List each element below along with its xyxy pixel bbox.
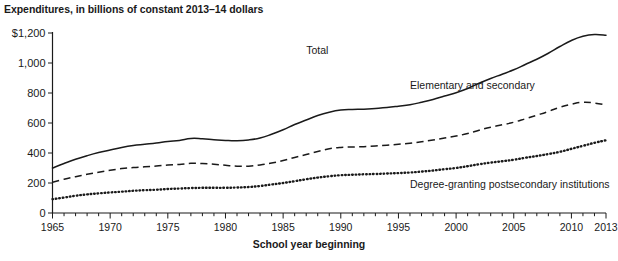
x-tick-label: 1995 — [387, 221, 411, 233]
series-label-1: Elementary and secondary — [410, 79, 536, 91]
series-path-1 — [53, 102, 607, 182]
y-tick-label: 600 — [27, 117, 45, 129]
x-tick-label: 1990 — [329, 221, 353, 233]
series-path-0 — [53, 34, 607, 168]
y-tick-label: 200 — [27, 177, 45, 189]
series-label-0: Total — [306, 44, 328, 56]
data-series-group — [53, 34, 607, 199]
y-axis-labels: $1,2001,0008006004002000 — [12, 27, 46, 219]
y-tick-label: 0 — [39, 207, 45, 219]
y-tick-label: 1,000 — [18, 57, 46, 69]
x-tick-label: 2010 — [560, 221, 584, 233]
x-tick-label: 1980 — [214, 221, 238, 233]
y-tick-label: 800 — [27, 87, 45, 99]
series-label-2: Degree-granting postsecondary institutio… — [410, 178, 610, 190]
x-axis-ticks — [53, 213, 607, 219]
x-tick-label: 1965 — [41, 221, 65, 233]
x-tick-label: 1985 — [271, 221, 295, 233]
x-tick-label: 2000 — [444, 221, 468, 233]
x-tick-label: 2013 — [594, 221, 618, 233]
x-tick-label: 2005 — [502, 221, 526, 233]
y-tick-label: $1,200 — [12, 27, 46, 39]
y-tick-label: 400 — [27, 147, 45, 159]
plot-area: $1,2001,0008006004002000 196519701975198… — [0, 0, 618, 261]
x-axis-title: School year beginning — [0, 238, 618, 250]
x-axis-labels: 1965197019751980198519901995200020052010… — [41, 221, 618, 233]
x-tick-label: 1970 — [98, 221, 122, 233]
expenditures-line-chart: Expenditures, in billions of constant 20… — [0, 0, 618, 261]
x-tick-label: 1975 — [156, 221, 180, 233]
y-axis-ticks — [48, 33, 53, 213]
